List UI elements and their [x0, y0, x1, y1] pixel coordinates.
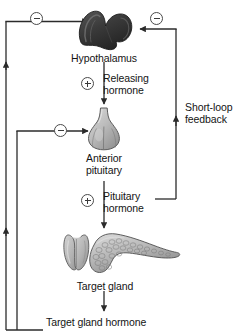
minus-sign-inhibitory-long-loop-hypothalamus — [30, 12, 43, 25]
releasing-hormone-label-line2: hormone — [103, 84, 144, 96]
plus-sign-stimulatory-pituitary-hormone — [81, 194, 94, 207]
thyroid-gland-icon — [64, 235, 89, 270]
hypothalamus-label: Hypothalamus — [71, 52, 137, 64]
target-gland-hormone-label: Target gland hormone — [46, 316, 146, 328]
hypothalamus-organ-icon — [79, 11, 131, 49]
minus-sign-inhibitory-short-loop-hypothalamus — [150, 12, 163, 25]
pituitary-gland-icon — [89, 108, 120, 150]
short-loop-feedback-label-line1: Short-loop — [185, 101, 232, 113]
minus-sign-inhibitory-long-loop-pituitary — [54, 124, 67, 137]
short-loop-feedback-label-line2: feedback — [185, 113, 227, 125]
pituitary-hormone-label-line1: Pituitary — [103, 190, 140, 202]
target-gland-label: Target gland — [77, 280, 134, 292]
plus-sign-stimulatory-releasing-hormone — [81, 77, 94, 90]
pituitary-hormone-label-line2: hormone — [103, 202, 144, 214]
pancreas-icon — [90, 234, 180, 273]
releasing-hormone-label-line1: Releasing — [103, 72, 149, 84]
endocrine-feedback-diagram: Hypothalamus Anterior pituitary Target g… — [0, 0, 243, 336]
anterior-pituitary-label-line1: Anterior — [86, 152, 122, 164]
anterior-pituitary-label-line2: pituitary — [86, 164, 122, 176]
